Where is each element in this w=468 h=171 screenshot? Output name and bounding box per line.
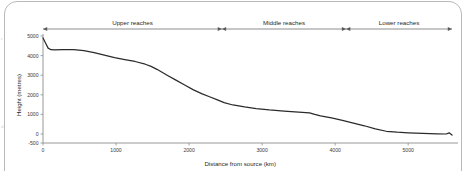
reach-label-0: Upper reaches xyxy=(112,19,153,26)
y-axis-tick-label: -500 xyxy=(28,140,38,146)
y-axis-tick-label: 4000 xyxy=(27,53,38,59)
y-axis-tick-label: 2000 xyxy=(27,92,38,98)
x-axis-tick-label: 3000 xyxy=(256,147,267,153)
y-axis-tick-label: 1000 xyxy=(27,111,38,117)
y-axis-tick-label: 3000 xyxy=(27,72,38,78)
reach-label-2: Lower reaches xyxy=(379,19,420,26)
river-profile-chart: Upper reachesMiddle reachesLower reaches… xyxy=(0,0,468,171)
river-profile-line xyxy=(43,38,452,135)
y-axis-title: Height (metres) xyxy=(15,74,22,116)
figure-container: r d Upper reachesMiddle reachesLower rea… xyxy=(0,0,468,171)
x-axis-tick-label: 4000 xyxy=(329,147,340,153)
reach-arrow-head-right xyxy=(448,27,452,31)
reach-arrow-head-left xyxy=(222,27,226,31)
x-axis-tick-label: 0 xyxy=(42,147,45,153)
reach-arrow-head-left xyxy=(43,27,47,31)
reach-arrow-head-right xyxy=(342,27,346,31)
x-axis-tick-label: 2000 xyxy=(183,147,194,153)
y-axis-tick-label: 5000 xyxy=(27,33,38,39)
reach-arrow-head-right xyxy=(218,27,222,31)
x-axis-tick-label: 1000 xyxy=(110,147,121,153)
reach-arrow-head-left xyxy=(346,27,350,31)
reach-label-1: Middle reaches xyxy=(263,19,305,26)
x-axis-title: Distance from source (km) xyxy=(204,160,275,167)
y-axis-tick-label: 0 xyxy=(36,131,39,137)
chart-axes: -500010002000300040005000010002000300040… xyxy=(27,33,458,153)
x-axis-tick-label: 5000 xyxy=(403,147,414,153)
chart-plot-area xyxy=(43,38,452,135)
reach-annotations: Upper reachesMiddle reachesLower reaches xyxy=(43,19,452,31)
chart-axis-titles: Distance from source (km)Height (metres) xyxy=(15,74,276,167)
